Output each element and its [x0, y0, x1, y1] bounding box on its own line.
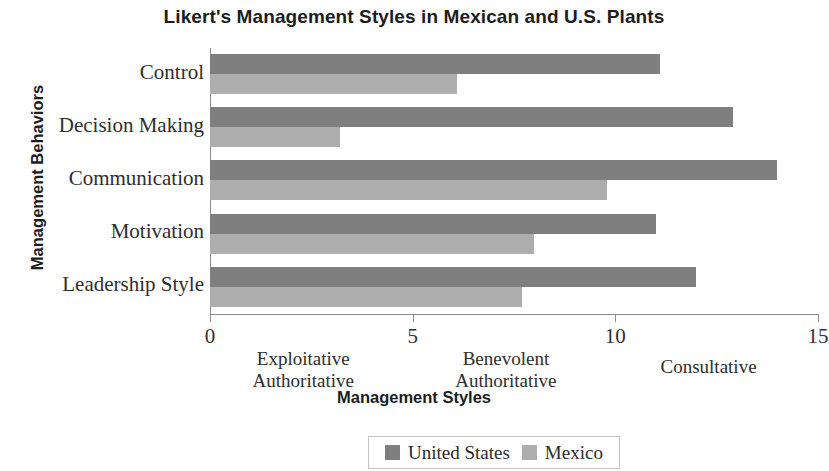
- bar-group: Decision Making: [210, 101, 818, 154]
- x-tick-label: 15: [808, 324, 829, 349]
- x-tick: [413, 314, 414, 322]
- x-tick: [210, 314, 211, 322]
- legend-entry[interactable]: United States: [385, 442, 510, 464]
- category-label: Leadership Style: [62, 272, 204, 297]
- legend-entry[interactable]: Mexico: [522, 442, 603, 464]
- bar-united-states: [210, 214, 656, 234]
- legend-swatch-icon: [522, 445, 537, 460]
- bar-mexico: [210, 74, 457, 94]
- management-style-band-label: Benevolent Authoritative: [455, 348, 556, 393]
- bar-group: Control: [210, 48, 818, 101]
- category-label: Motivation: [111, 219, 204, 244]
- bar-group: Motivation: [210, 208, 818, 261]
- bar-mexico: [210, 287, 522, 307]
- x-axis-line: [210, 314, 819, 315]
- bar-united-states: [210, 160, 777, 180]
- chart-title: Likert's Management Styles in Mexican an…: [0, 6, 828, 28]
- x-tick-label: 10: [605, 324, 626, 349]
- x-tick-label: 5: [407, 324, 418, 349]
- bar-mexico: [210, 180, 607, 200]
- legend-label: United States: [408, 442, 510, 464]
- category-label: Control: [140, 60, 204, 85]
- legend-swatch-icon: [385, 445, 400, 460]
- x-axis-title: Management Styles: [0, 388, 828, 407]
- bar-united-states: [210, 54, 660, 74]
- bar-group: Communication: [210, 154, 818, 207]
- y-axis-title: Management Behaviors: [28, 68, 47, 288]
- bar-mexico: [210, 234, 534, 254]
- x-tick: [615, 314, 616, 322]
- management-style-band-label: Consultative: [661, 356, 757, 378]
- x-tick: [818, 314, 819, 322]
- bar-mexico: [210, 127, 340, 147]
- legend-label: Mexico: [545, 442, 603, 464]
- category-label: Communication: [69, 166, 204, 191]
- bar-united-states: [210, 267, 696, 287]
- category-label: Decision Making: [59, 113, 204, 138]
- chart-legend: United StatesMexico: [368, 436, 620, 469]
- management-style-band-label: Exploitative Authoritative: [253, 348, 354, 393]
- bar-group: Leadership Style: [210, 261, 818, 314]
- bar-united-states: [210, 107, 733, 127]
- x-tick-label: 0: [205, 324, 216, 349]
- plot-area: 051015 ControlDecision MakingCommunicati…: [210, 48, 818, 314]
